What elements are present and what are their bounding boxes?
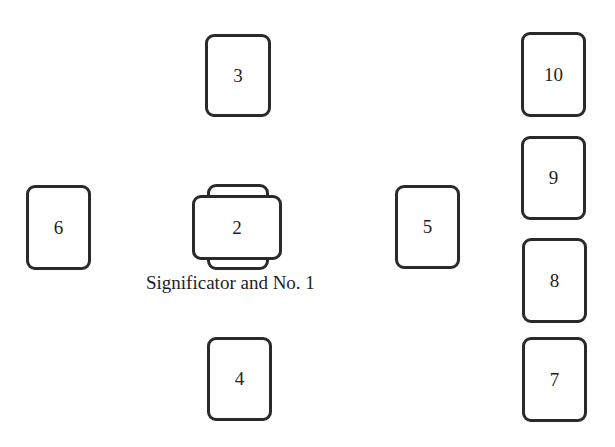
card-9: 9 xyxy=(521,136,586,220)
card-label: 5 xyxy=(423,216,433,238)
card-4: 4 xyxy=(207,337,272,421)
card-label: 3 xyxy=(233,65,243,87)
card-8: 8 xyxy=(522,238,587,323)
card-label: 2 xyxy=(232,217,242,239)
card-label: 4 xyxy=(235,368,245,390)
card-6: 6 xyxy=(26,185,91,270)
card-7: 7 xyxy=(522,337,587,422)
card-label: 9 xyxy=(549,167,559,189)
card-10: 10 xyxy=(521,32,586,117)
card-2-crossing: 2 xyxy=(192,195,282,260)
card-3: 3 xyxy=(205,34,271,117)
card-5: 5 xyxy=(395,185,460,269)
card-label: 8 xyxy=(550,270,560,292)
card-label: 7 xyxy=(550,369,560,391)
card-label: 6 xyxy=(54,217,64,239)
caption-significator: Significator and No. 1 xyxy=(146,272,315,294)
card-label: 10 xyxy=(544,64,563,86)
